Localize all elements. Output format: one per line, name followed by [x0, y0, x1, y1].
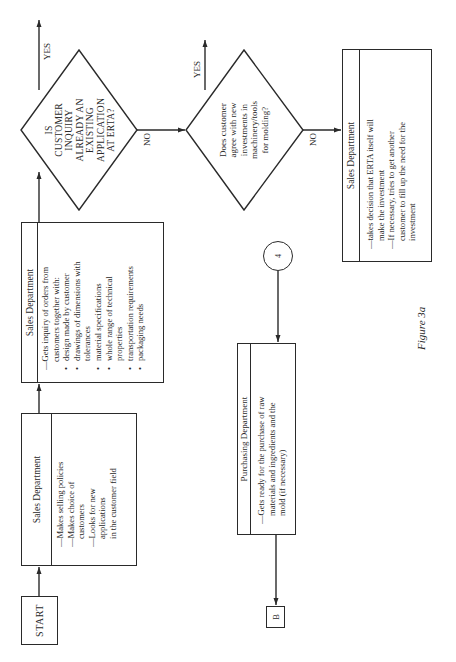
sales-box-2-bullet-cont: tolerances [82, 229, 93, 370]
purchasing-box-line: mold (if necessary) [277, 350, 288, 524]
sales-box-1-body: —Makes selling policies —Makes choice of… [51, 414, 136, 565]
sales-box-2-intro: customers together with: [51, 229, 62, 370]
figure-caption: Figure 3a [415, 307, 427, 350]
decision-2-no-label: NO [308, 133, 318, 146]
sales-department-box-3: Sales Department —takes decision that ER… [342, 49, 432, 262]
offpage-connector-b: B [266, 606, 285, 628]
sales-box-3-line: —If necessary, tries to get another [386, 56, 397, 249]
offpage-b-label: B [271, 614, 281, 620]
sales-box-1-header: Sales Department [22, 414, 52, 565]
flowchart-page: START Sales Department —Makes selling po… [0, 0, 456, 662]
decision-2-line: investments in [239, 104, 250, 156]
sales-box-3-header: Sales Department [343, 50, 360, 261]
decision-1-line: AT ERTA? [106, 108, 116, 152]
purchasing-box-line: materials and ingredients and the [267, 350, 278, 524]
connector-4-label: 4 [274, 254, 283, 258]
sales-box-1-line: applications [97, 420, 108, 547]
sales-box-2-bullet: design made by customer [61, 229, 72, 370]
sales-box-2-bullet: whole range of technical [104, 229, 115, 370]
start-terminal: START [21, 596, 58, 645]
sales-box-2-header: Sales Department [22, 223, 38, 382]
sales-box-3-line: —takes decision that ERTA itself will [365, 56, 376, 249]
purchasing-box-body: —Gets ready for the purchase of raw mate… [250, 344, 295, 534]
sales-department-box-2: Sales Department —Gets inquiry of orders… [21, 222, 164, 383]
decision-1-no-label: NO [142, 133, 152, 146]
sales-box-2-bullet: packaging needs [135, 229, 146, 370]
decision-1-yes-label: YES [42, 43, 52, 60]
decision-2-question: Does customer agree with new investments… [206, 80, 282, 180]
sales-box-1-line: in the customer field [108, 420, 119, 547]
sales-box-3-line: customer to fill up the need for the [397, 56, 408, 249]
sales-box-2-body: —Gets inquiry of orders from customers t… [37, 223, 163, 382]
sales-box-2-bullet: transportation requirements [125, 229, 136, 370]
decision-2-line: agree with new [228, 103, 239, 158]
sales-box-1-line: —Makes selling policies [55, 420, 66, 547]
decision-2-yes-label: YES [192, 61, 202, 78]
sales-box-2-bullet: drawings of dimensions with [72, 229, 83, 370]
decision-2-line: for molding? [260, 107, 271, 154]
decision-2-line: Does customer [218, 103, 229, 157]
sales-box-3-line: make the investment [376, 56, 387, 249]
purchasing-department-box: Purchasing Department —Gets ready for th… [237, 343, 296, 535]
sales-box-2-intro: —Gets inquiry of orders from [40, 229, 51, 370]
sales-box-1-line: —Looks for new [87, 420, 98, 547]
sales-box-2-bullet-cont: properties [114, 229, 125, 370]
sales-box-3-line: investment [407, 56, 418, 249]
sales-box-1-line: —Makes choice of [66, 420, 77, 547]
sales-department-box-1: Sales Department —Makes selling policies… [21, 413, 137, 566]
decision-1-question: IS CUSTOMER INQUIRY ALREADY AN EXISTING … [24, 80, 136, 180]
connector-4-circle: 4 [263, 241, 293, 271]
purchasing-box-line: —Gets ready for the purchase of raw [256, 350, 267, 524]
start-label: START [34, 604, 45, 637]
sales-box-2-bullet: material specifications [93, 229, 104, 370]
sales-box-3-body: —takes decision that ERTA itself will ma… [359, 50, 431, 261]
decision-2-line: machinery/tools [249, 101, 260, 159]
sales-box-1-line: customers [76, 420, 87, 547]
